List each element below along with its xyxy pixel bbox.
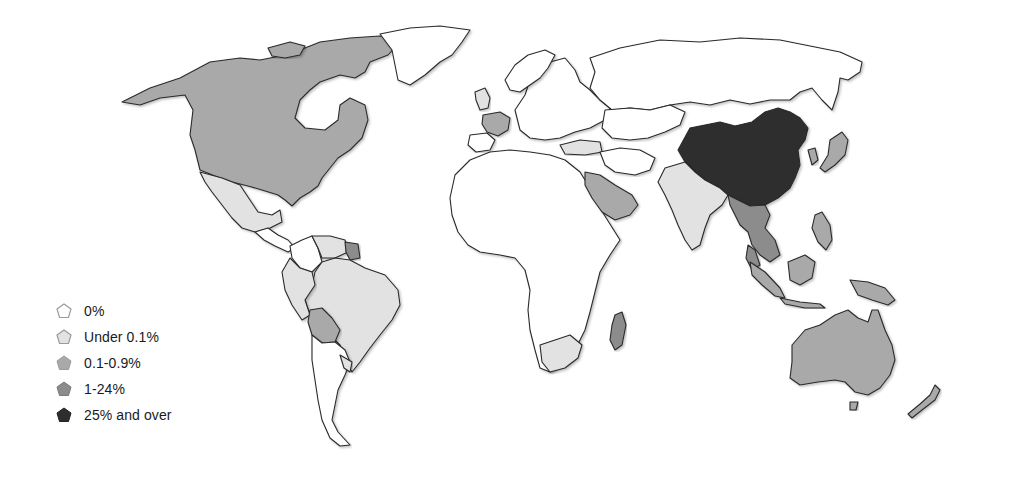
legend-label: 0% bbox=[84, 303, 104, 319]
region-iberia bbox=[468, 133, 495, 152]
region-korea bbox=[808, 148, 818, 165]
pentagon-swatch-icon bbox=[56, 381, 72, 397]
region-greenland bbox=[380, 26, 470, 85]
pentagon-swatch-icon bbox=[56, 407, 72, 423]
region-philippines bbox=[812, 212, 832, 250]
region-uk bbox=[475, 88, 490, 110]
region-tasmania bbox=[850, 402, 858, 410]
legend-label: Under 0.1% bbox=[84, 329, 159, 345]
legend-item-zero: 0% bbox=[56, 298, 172, 324]
map-legend: 0% Under 0.1% 0.1-0.9% 1-24% 25% and ove… bbox=[56, 298, 172, 428]
legend-item-0-1-0-9: 0.1-0.9% bbox=[56, 350, 172, 376]
region-new-guinea bbox=[850, 280, 895, 305]
region-new-zealand bbox=[908, 385, 940, 418]
region-argentina bbox=[312, 335, 350, 446]
region-borneo bbox=[788, 255, 815, 285]
pentagon-swatch-icon bbox=[56, 329, 72, 345]
legend-item-1-24: 1-24% bbox=[56, 376, 172, 402]
region-guianas bbox=[345, 242, 360, 260]
legend-item-under-0-1: Under 0.1% bbox=[56, 324, 172, 350]
pentagon-swatch-icon bbox=[56, 303, 72, 319]
region-sumatra bbox=[750, 262, 785, 298]
region-japan bbox=[820, 132, 848, 172]
legend-label: 1-24% bbox=[84, 381, 125, 397]
region-france bbox=[482, 112, 510, 136]
region-java bbox=[780, 298, 825, 308]
region-madagascar bbox=[610, 312, 626, 350]
region-central-america bbox=[255, 228, 295, 252]
region-north-america bbox=[122, 36, 400, 206]
region-russia bbox=[590, 38, 862, 110]
legend-item-25-and-over: 25% and over bbox=[56, 402, 172, 428]
region-middle-east bbox=[600, 148, 655, 175]
legend-label: 0.1-0.9% bbox=[84, 355, 141, 371]
region-central-asia bbox=[602, 105, 685, 140]
legend-label: 25% and over bbox=[84, 407, 172, 423]
pentagon-swatch-icon bbox=[56, 355, 72, 371]
region-arctic-islands bbox=[268, 42, 305, 58]
region-turkey bbox=[560, 140, 602, 155]
region-australia bbox=[790, 310, 895, 395]
